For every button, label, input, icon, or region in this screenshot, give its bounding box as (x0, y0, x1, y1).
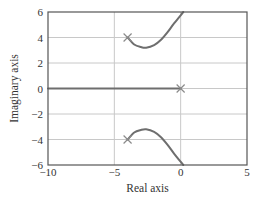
locus-upper-branch (128, 12, 184, 48)
y-tick-label: 6 (38, 6, 44, 18)
y-tick-label: −2 (31, 108, 43, 120)
y-tick-label: 0 (38, 83, 44, 95)
x-tick-label: 0 (178, 166, 184, 178)
locus-branches (48, 12, 183, 165)
locus-lower-branch (128, 129, 184, 165)
root-locus-chart: −10−505 6420−2−4−6 Real axis Imaginary a… (0, 0, 261, 200)
x-axis-label: Real axis (126, 182, 169, 194)
y-tick-label: 4 (38, 32, 44, 44)
y-tick-label: −4 (31, 134, 43, 146)
x-tick-label: 5 (244, 166, 250, 178)
y-tick-labels: 6420−2−4−6 (31, 6, 43, 171)
y-tick-label: −6 (31, 159, 43, 171)
x-tick-labels: −10−505 (39, 166, 250, 178)
y-tick-label: 2 (38, 57, 44, 69)
y-axis-label: Imaginary axis (8, 54, 21, 123)
x-tick-label: −5 (108, 166, 120, 178)
